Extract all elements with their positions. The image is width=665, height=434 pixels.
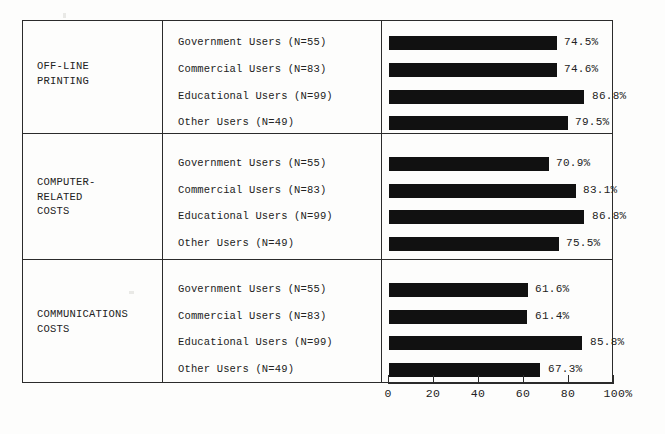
- bar: [389, 90, 584, 104]
- chart-row: Commercial Users (N=83) 83.1%: [162, 178, 612, 205]
- bar: [389, 184, 576, 198]
- chart-row: Government Users (N=55) 74.5%: [162, 30, 612, 57]
- group-title: COMMUNICATIONS COSTS: [37, 307, 162, 336]
- bar: [389, 336, 582, 350]
- chart-group: COMPUTER- RELATED COSTS Government Users…: [23, 133, 612, 259]
- bar: [389, 237, 559, 251]
- row-label: Other Users (N=49): [178, 362, 294, 376]
- bar-value-label: 86.8%: [592, 88, 627, 104]
- bar-area: 85.8%: [381, 330, 612, 357]
- bar-value-label: 74.6%: [564, 61, 599, 77]
- x-axis-tick-label: 100%: [604, 386, 633, 402]
- row-label: Other Users (N=49): [178, 115, 294, 129]
- group-title: COMPUTER- RELATED COSTS: [37, 175, 162, 219]
- row-label: Government Users (N=55): [178, 35, 326, 49]
- row-label: Commercial Users (N=83): [178, 309, 326, 323]
- x-axis-labels: 0 20 40 60 80 100%: [380, 386, 630, 404]
- bar-area: 61.6%: [381, 277, 612, 304]
- x-axis-tick: [568, 375, 569, 384]
- x-axis-tick-label: 0: [384, 386, 391, 402]
- bar: [389, 36, 557, 50]
- chart-row: Commercial Users (N=83) 61.4%: [162, 304, 612, 331]
- chart-row: Commercial Users (N=83) 74.6%: [162, 57, 612, 84]
- x-axis: [380, 371, 614, 385]
- group-rows: Government Users (N=55) 61.6% Commercial…: [162, 259, 612, 384]
- bar-value-label: 75.5%: [566, 235, 601, 251]
- bar: [389, 310, 527, 324]
- x-axis-line: [388, 383, 613, 384]
- row-label: Educational Users (N=99): [178, 209, 333, 223]
- x-axis-tick: [523, 375, 524, 384]
- x-axis-tick: [478, 375, 479, 384]
- bar-area: 61.4%: [381, 304, 612, 331]
- chart-row: Government Users (N=55) 61.6%: [162, 277, 612, 304]
- bar-value-label: 74.5%: [564, 34, 599, 50]
- bar-value-label: 83.1%: [583, 182, 618, 198]
- chart-row: Educational Users (N=99) 86.8%: [162, 204, 612, 231]
- bar: [389, 283, 528, 297]
- row-label: Other Users (N=49): [178, 236, 294, 250]
- chart-row: Educational Users (N=99) 85.8%: [162, 330, 612, 357]
- row-label: Commercial Users (N=83): [178, 62, 326, 76]
- group-rows: Government Users (N=55) 74.5% Commercial…: [162, 21, 612, 133]
- x-axis-tick-label: 60: [516, 386, 530, 402]
- bar-area: 86.8%: [381, 84, 612, 111]
- bar-value-label: 61.4%: [535, 308, 570, 324]
- bar-area: 83.1%: [381, 178, 612, 205]
- row-label: Educational Users (N=99): [178, 335, 333, 349]
- x-axis-tick-label: 20: [426, 386, 440, 402]
- bar-area: 70.9%: [381, 151, 612, 178]
- chart-table-frame: OFF-LINE PRINTING Government Users (N=55…: [22, 20, 613, 383]
- bar: [389, 116, 568, 130]
- bar-value-label: 79.5%: [575, 114, 610, 130]
- x-axis-tick-label: 80: [561, 386, 575, 402]
- bar: [389, 210, 584, 224]
- chart-row: Government Users (N=55) 70.9%: [162, 151, 612, 178]
- bar: [389, 63, 557, 77]
- row-label: Commercial Users (N=83): [178, 183, 326, 197]
- row-label: Educational Users (N=99): [178, 89, 333, 103]
- row-label: Government Users (N=55): [178, 282, 326, 296]
- group-rows: Government Users (N=55) 70.9% Commercial…: [162, 133, 612, 259]
- chart-group: COMMUNICATIONS COSTS Government Users (N…: [23, 259, 612, 384]
- x-axis-tick: [433, 375, 434, 384]
- bar-value-label: 85.8%: [590, 334, 625, 350]
- bar-area: 74.6%: [381, 57, 612, 84]
- bar-value-label: 86.8%: [592, 208, 627, 224]
- bar-value-label: 70.9%: [556, 155, 591, 171]
- chart-row: Educational Users (N=99) 86.8%: [162, 84, 612, 111]
- x-axis-tick-label: 40: [471, 386, 485, 402]
- x-axis-tick: [613, 375, 614, 384]
- bar-area: 75.5%: [381, 231, 612, 258]
- group-title: OFF-LINE PRINTING: [37, 59, 162, 88]
- scan-speck: [63, 13, 66, 18]
- bar-area: 74.5%: [381, 30, 612, 57]
- x-axis-tick: [388, 375, 389, 384]
- chart-group: OFF-LINE PRINTING Government Users (N=55…: [23, 21, 612, 133]
- chart-row: Other Users (N=49) 75.5%: [162, 231, 612, 258]
- bar-value-label: 61.6%: [535, 281, 570, 297]
- bar-area: 86.8%: [381, 204, 612, 231]
- row-label: Government Users (N=55): [178, 156, 326, 170]
- bar: [389, 157, 549, 171]
